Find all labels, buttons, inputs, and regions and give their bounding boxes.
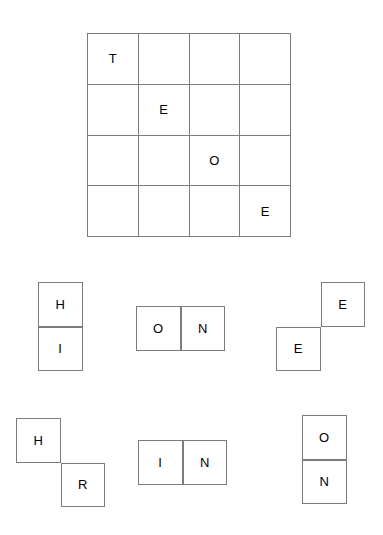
piece-cell-hi-0[interactable]: H xyxy=(38,282,83,327)
grid-cell-r3-c2[interactable] xyxy=(190,186,241,237)
piece-on-vertical-domino[interactable]: ON xyxy=(302,415,347,504)
piece-hr-diagonal[interactable]: HR xyxy=(16,418,105,507)
piece-hi-vertical-domino[interactable]: HI xyxy=(38,282,83,371)
grid-cell-r0-c1[interactable] xyxy=(139,34,190,85)
piece-cell-in-0[interactable]: I xyxy=(138,440,183,485)
letter-grid: TEOE xyxy=(87,33,291,237)
piece-cell-on-1[interactable]: N xyxy=(302,460,347,505)
grid-cell-r2-c2[interactable]: O xyxy=(190,136,241,187)
grid-cell-r3-c3[interactable]: E xyxy=(240,186,291,237)
piece-cell-on-0[interactable]: O xyxy=(302,415,347,460)
piece-cell-hi-1[interactable]: I xyxy=(38,327,83,372)
grid-cell-r3-c1[interactable] xyxy=(139,186,190,237)
piece-ee-anti-diagonal[interactable]: EE xyxy=(276,282,365,371)
puzzle-stage: TEOEHIONEEHRINON xyxy=(0,0,383,535)
grid-cell-r0-c2[interactable] xyxy=(190,34,241,85)
piece-cell-on-0[interactable]: O xyxy=(136,306,181,351)
piece-cell-hr-0[interactable]: H xyxy=(16,418,61,463)
grid-cell-r1-c2[interactable] xyxy=(190,85,241,136)
grid-cell-r2-c0[interactable] xyxy=(88,136,139,187)
grid-cell-r1-c0[interactable] xyxy=(88,85,139,136)
piece-cell-on-1[interactable]: N xyxy=(181,306,226,351)
grid-row: E xyxy=(88,85,291,136)
grid-cell-r0-c0[interactable]: T xyxy=(88,34,139,85)
piece-cell-hr-1[interactable]: R xyxy=(61,463,106,508)
piece-cell-ee-1[interactable]: E xyxy=(276,327,321,372)
piece-in-horizontal-domino[interactable]: IN xyxy=(138,440,227,485)
grid-cell-r3-c0[interactable] xyxy=(88,186,139,237)
grid-cell-r2-c3[interactable] xyxy=(240,136,291,187)
grid-row: T xyxy=(88,34,291,85)
grid-row: E xyxy=(88,186,291,237)
piece-cell-in-1[interactable]: N xyxy=(183,440,228,485)
grid-cell-r2-c1[interactable] xyxy=(139,136,190,187)
grid-cell-r1-c1[interactable]: E xyxy=(139,85,190,136)
grid-row: O xyxy=(88,136,291,187)
piece-on-horizontal-domino[interactable]: ON xyxy=(136,306,225,351)
piece-cell-ee-0[interactable]: E xyxy=(321,282,366,327)
grid-cell-r0-c3[interactable] xyxy=(240,34,291,85)
grid-cell-r1-c3[interactable] xyxy=(240,85,291,136)
